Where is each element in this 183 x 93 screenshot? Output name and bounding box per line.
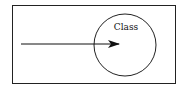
circle-label: Class [114,22,139,32]
class-diagram: Class [0,0,183,93]
